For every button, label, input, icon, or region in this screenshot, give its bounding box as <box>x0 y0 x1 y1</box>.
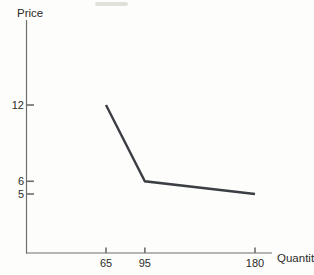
y-axis-title: Price <box>17 7 43 19</box>
x-tick-label: 95 <box>139 257 151 269</box>
chart-figure: Price Quantity 1265 6595180 <box>0 0 314 275</box>
x-axis-ticks: 6595180 <box>100 248 264 270</box>
y-tick-label: 12 <box>12 99 24 111</box>
scan-smudge-artifact <box>95 2 128 6</box>
y-tick-label: 5 <box>18 188 24 200</box>
kinked-demand-curve-line <box>106 105 255 194</box>
y-axis-ticks: 1265 <box>12 99 34 200</box>
x-axis-title: Quantity <box>277 252 314 264</box>
chart-canvas: Price Quantity 1265 6595180 <box>0 0 314 275</box>
x-tick-label: 180 <box>246 257 264 269</box>
x-tick-label: 65 <box>100 257 112 269</box>
y-tick-label: 6 <box>18 175 24 187</box>
